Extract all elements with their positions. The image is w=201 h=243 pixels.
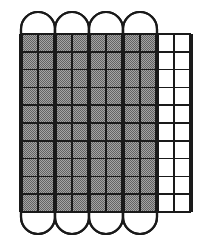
grid-capsule-diagram (0, 0, 201, 243)
figure-root (0, 0, 201, 243)
